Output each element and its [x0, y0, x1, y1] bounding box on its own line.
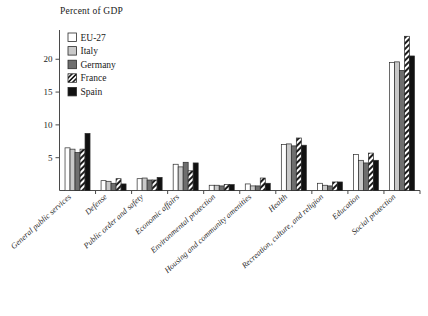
bar	[250, 186, 255, 191]
bar	[389, 63, 394, 191]
legend-label: France	[81, 73, 107, 83]
bar	[363, 163, 368, 191]
bar	[404, 36, 409, 190]
bar	[409, 56, 414, 191]
legend-label: Germany	[81, 60, 117, 70]
bar	[286, 144, 291, 191]
bar	[152, 180, 157, 191]
chart-container: Percent of GDP 5101520 EU-27ItalyGermany…	[0, 0, 428, 316]
x-axis-category-label: Defense	[83, 192, 110, 217]
bar	[188, 171, 193, 191]
legend-label: Spain	[81, 87, 103, 97]
bar	[260, 178, 265, 190]
legend-swatch	[68, 74, 77, 83]
bar	[214, 185, 219, 190]
chart-legend: EU-27ItalyGermanyFranceSpain	[68, 33, 116, 97]
legend-label: Italy	[81, 46, 99, 56]
x-axis-category-label: General public services	[9, 192, 73, 251]
bar	[173, 164, 178, 190]
bar	[183, 162, 188, 190]
bar	[116, 179, 121, 191]
x-axis-category-label: Education	[329, 192, 361, 222]
bar	[137, 179, 142, 191]
bar	[85, 133, 90, 190]
x-axis-category-label: Health	[266, 192, 289, 214]
bar	[209, 185, 214, 190]
bar	[399, 70, 404, 190]
bar	[301, 145, 306, 190]
bar	[245, 184, 250, 191]
svg-text:20: 20	[44, 54, 54, 64]
bar	[327, 186, 332, 191]
bar	[65, 148, 70, 191]
x-axis-category-label: Environmental protection	[148, 192, 217, 255]
bar	[296, 138, 301, 191]
bar	[394, 62, 399, 191]
bar	[368, 153, 373, 190]
bar	[265, 183, 270, 190]
bar	[322, 185, 327, 190]
legend-swatch	[68, 33, 77, 42]
bar	[101, 181, 106, 191]
bar	[317, 183, 322, 190]
bar	[80, 149, 85, 190]
bar	[157, 177, 162, 190]
bar	[358, 160, 363, 190]
bar-chart: 5101520 EU-27ItalyGermanyFranceSpain Gen…	[0, 0, 428, 316]
bar	[106, 181, 111, 190]
bar	[219, 186, 224, 191]
bar	[353, 154, 358, 190]
bar	[111, 183, 116, 190]
plot-area: 5101520	[44, 30, 421, 194]
svg-text:10: 10	[44, 120, 54, 130]
bar	[373, 160, 378, 190]
bar	[229, 185, 234, 191]
legend-swatch	[68, 60, 77, 68]
legend-label: EU-27	[81, 33, 107, 43]
bar	[255, 186, 260, 191]
bar	[147, 180, 152, 191]
bar	[121, 184, 126, 191]
bar	[75, 152, 80, 190]
bar	[70, 149, 75, 190]
bar	[178, 167, 183, 191]
bar	[193, 163, 198, 191]
legend-swatch	[68, 87, 77, 96]
bar	[337, 182, 342, 191]
bar	[224, 185, 229, 191]
legend-swatch	[68, 47, 77, 56]
svg-text:15: 15	[44, 87, 54, 97]
bar	[142, 178, 147, 190]
x-axis-category-label: Public order and safety	[81, 192, 145, 251]
bar	[332, 182, 337, 191]
bar	[281, 145, 286, 191]
bar	[291, 146, 296, 191]
svg-text:5: 5	[48, 153, 53, 163]
x-axis-labels: General public servicesDefensePublic ord…	[9, 192, 397, 276]
